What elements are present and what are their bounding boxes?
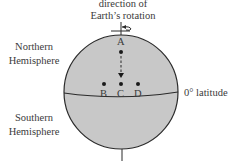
- point-b-dot: [102, 82, 106, 86]
- northern-hemisphere-label-line2: Hemisphere: [4, 54, 64, 67]
- point-a-dot: [119, 50, 123, 54]
- northern-hemisphere-label-line1: Northern: [4, 40, 64, 53]
- rotation-label-line2: Earth’s rotation: [78, 9, 168, 22]
- point-c-label: C: [117, 87, 124, 100]
- rotation-arrowhead-icon: [122, 25, 126, 29]
- point-d-label: D: [134, 87, 142, 100]
- point-d-dot: [136, 82, 140, 86]
- point-a-label: A: [117, 35, 125, 48]
- equator-label: 0° latitude: [184, 86, 228, 99]
- southern-hemisphere-label-line2: Hemisphere: [4, 125, 64, 138]
- point-b-label: B: [100, 87, 107, 100]
- southern-hemisphere-label-line1: Southern: [4, 111, 64, 124]
- point-c-dot: [119, 82, 123, 86]
